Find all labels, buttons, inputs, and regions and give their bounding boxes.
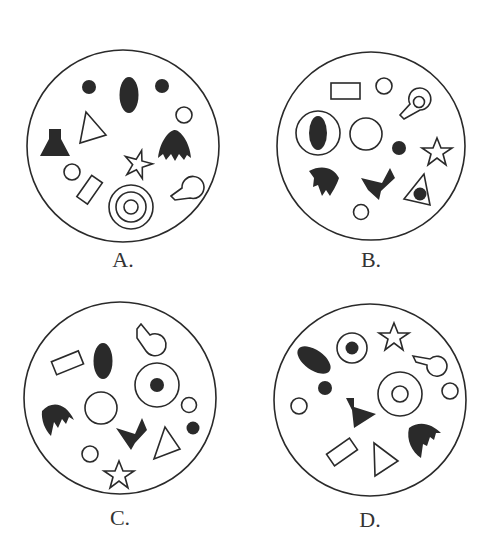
option-c-label[interactable]: C.	[110, 505, 130, 531]
star-icon	[422, 138, 452, 165]
option-d-figure	[274, 304, 466, 496]
flask-icon	[116, 418, 147, 450]
black-dot-icon	[414, 188, 427, 201]
option-d-label[interactable]: D.	[359, 507, 380, 533]
black-ellipse-icon	[120, 77, 139, 113]
lightbulb-icon	[413, 356, 447, 376]
star-icon	[121, 147, 155, 180]
outer-circle	[277, 52, 465, 240]
black-ellipse-icon	[293, 341, 336, 379]
black-dot-icon	[318, 381, 332, 395]
small-circle-icon	[176, 107, 192, 123]
small-circle-icon	[64, 164, 80, 180]
figure-canvas	[0, 0, 497, 560]
black-dot-icon	[392, 141, 406, 155]
medium-circle-icon	[350, 118, 382, 150]
triangle-icon	[374, 443, 398, 476]
black-dot-icon	[346, 342, 359, 355]
flask-icon	[346, 398, 376, 428]
medium-ring-inner	[392, 386, 408, 402]
keyhole-icon	[400, 88, 431, 119]
umbrella-shape-icon	[408, 424, 441, 458]
small-circle-icon	[182, 398, 197, 413]
flask-icon	[40, 129, 70, 156]
option-c-figure	[24, 302, 216, 494]
black-ellipse-icon	[309, 116, 327, 150]
star-icon	[104, 461, 134, 488]
star-icon	[379, 323, 409, 350]
small-circle-icon	[291, 398, 307, 414]
concentric-circle-inner	[124, 200, 138, 214]
flask-icon	[361, 168, 395, 200]
rectangle-icon	[77, 175, 103, 204]
lightbulb-icon	[171, 176, 204, 200]
outer-circle	[274, 304, 466, 496]
triangle-icon	[154, 427, 180, 459]
small-circle-icon	[82, 446, 98, 462]
black-ellipse-icon	[94, 343, 113, 379]
rectangle-icon	[327, 438, 358, 466]
black-dot-icon	[155, 79, 169, 93]
black-dot-icon	[82, 80, 96, 94]
option-a-figure	[27, 50, 219, 242]
option-b-label[interactable]: B.	[361, 247, 381, 273]
small-circle-icon	[442, 383, 458, 399]
black-dot-icon	[150, 378, 164, 392]
concentric-circle-middle	[116, 192, 146, 222]
keyhole-inner-circle	[414, 97, 425, 108]
triangle-icon	[80, 112, 106, 143]
option-a-label[interactable]: A.	[112, 247, 133, 273]
rectangle-icon	[51, 351, 83, 375]
option-b-figure	[277, 52, 465, 240]
umbrella-shape-icon	[158, 130, 191, 161]
rectangle-icon	[331, 83, 360, 99]
black-dot-icon	[187, 422, 200, 435]
medium-circle-icon	[85, 392, 117, 424]
medium-ring-outer	[378, 372, 422, 416]
umbrella-shape-icon	[42, 405, 74, 436]
umbrella-shape-icon	[309, 167, 339, 196]
small-circle-icon	[376, 78, 392, 94]
lightbulb-icon	[137, 324, 166, 356]
small-circle-icon	[354, 205, 369, 220]
